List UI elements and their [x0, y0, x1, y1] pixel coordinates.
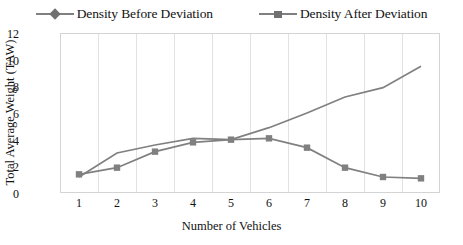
series-line-density-after-deviation — [79, 138, 421, 178]
series-markers-density-before-deviation — [79, 0, 421, 173]
series-layer — [0, 0, 463, 245]
series-line-density-before-deviation — [79, 66, 421, 177]
chart-figure: Density Before Deviation Density After D… — [0, 0, 463, 245]
